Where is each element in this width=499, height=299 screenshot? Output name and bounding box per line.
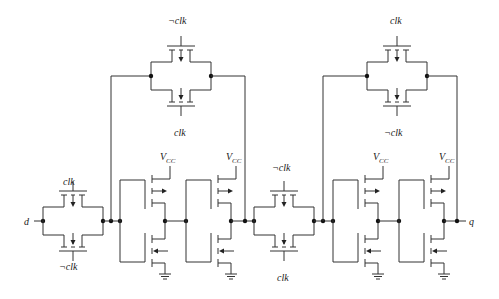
inverter-4 — [399, 166, 450, 279]
transmission-gate-slave-feedback — [367, 36, 427, 116]
transmission-gate-master-feedback — [151, 36, 211, 116]
inverter-1 — [120, 166, 171, 279]
output-label-q: q — [469, 216, 474, 227]
vcc-label: VCC — [160, 151, 176, 165]
tg-master-bottom-label: clk — [174, 127, 186, 138]
junction-dot — [455, 219, 459, 223]
tg-input-bottom-label: ¬clk — [59, 261, 78, 272]
vcc-label: VCC — [439, 151, 455, 165]
input-label-d: d — [24, 216, 30, 227]
tg-slave-top-label: clk — [390, 15, 402, 26]
tg-middle-bottom-label: clk — [277, 272, 289, 283]
tg-middle-top-label: ¬clk — [272, 162, 291, 173]
transmission-gate-middle — [254, 181, 314, 261]
transmission-gate-input — [43, 181, 103, 261]
tg-slave-bottom-label: ¬clk — [384, 127, 403, 138]
vcc-label: VCC — [373, 151, 389, 165]
vcc-label: VCC — [226, 151, 242, 165]
inverter-2 — [186, 166, 237, 279]
junction-dot — [149, 74, 153, 78]
junction-dot — [243, 219, 247, 223]
junction-dot — [365, 74, 369, 78]
circuit-diagram: d clk ¬clk ¬clk clk VCC VCC ¬clk clk clk… — [0, 0, 499, 299]
tg-master-top-label: ¬clk — [168, 15, 187, 26]
inverter-3 — [333, 166, 384, 279]
tg-input-top-label: clk — [63, 176, 75, 187]
